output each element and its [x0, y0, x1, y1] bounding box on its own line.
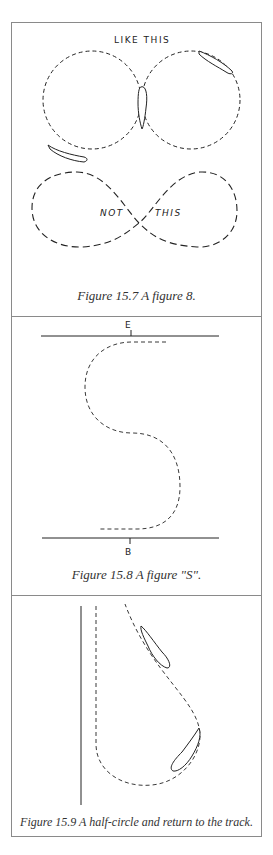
label-b: B: [125, 547, 133, 557]
horse-icon: [171, 728, 200, 771]
figure-frame: LIKE THIS NOT THIS Figure 15.7 A figure …: [11, 22, 262, 837]
label-like-this: LIKE THIS: [114, 35, 170, 45]
figure-caption: Figure 15.8 A figure "S".: [12, 567, 261, 583]
figure-15-7-panel: LIKE THIS NOT THIS Figure 15.7 A figure …: [12, 23, 261, 316]
label-this: THIS: [155, 208, 182, 218]
label-e: E: [125, 320, 132, 330]
figure-8-diagram: LIKE THIS NOT THIS: [12, 23, 261, 316]
left-circle-path: [43, 51, 141, 149]
figure-15-9-panel: Figure 15.9 A half-circle and return to …: [12, 596, 261, 836]
s-path: [85, 342, 180, 529]
figure-caption: Figure 15.9 A half-circle and return to …: [12, 815, 261, 830]
label-not: NOT: [100, 208, 124, 218]
infinity-path: [32, 172, 237, 247]
horse-icon: [199, 51, 233, 74]
half-circle-diagram: [12, 596, 261, 836]
horse-icon: [141, 626, 170, 668]
horse-icon: [138, 87, 147, 129]
figure-15-8-panel: E B Figure 15.8 A figure "S".: [12, 317, 261, 595]
figure-s-diagram: E B: [12, 317, 261, 595]
figure-caption: Figure 15.7 A figure 8.: [12, 288, 261, 304]
